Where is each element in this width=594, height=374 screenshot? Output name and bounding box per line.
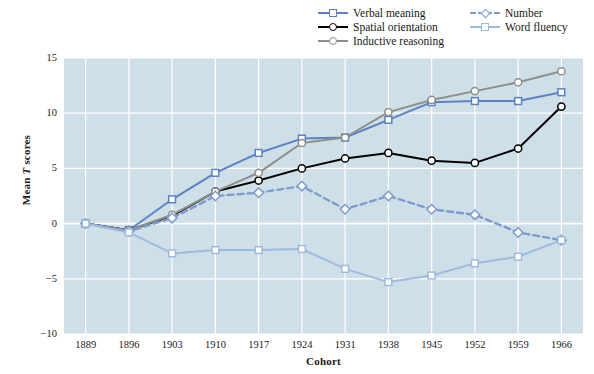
plot-area bbox=[64, 58, 583, 334]
x-axis-tick-label: 1924 bbox=[279, 339, 325, 350]
data-point-marker bbox=[342, 155, 349, 162]
data-point-marker bbox=[255, 169, 262, 176]
data-point-marker bbox=[254, 188, 264, 198]
x-axis-tick-label: 1903 bbox=[149, 339, 195, 350]
data-point-marker bbox=[212, 169, 219, 176]
data-point-marker bbox=[471, 260, 478, 267]
y-axis-tick-label: 0 bbox=[17, 219, 57, 229]
data-point-marker bbox=[125, 229, 132, 236]
series-inductive-reasoning bbox=[82, 68, 565, 234]
y-axis-tick-label: 10 bbox=[17, 108, 57, 118]
y-axis-tick-label: 15 bbox=[17, 53, 57, 63]
x-axis-tick-label: 1952 bbox=[452, 339, 498, 350]
data-point-marker bbox=[169, 196, 176, 203]
data-point-marker bbox=[298, 165, 305, 172]
chart-canvas: 151050−5−10 1889189619031910191719241931… bbox=[0, 0, 594, 374]
series-layer bbox=[81, 68, 566, 286]
y-axis-tick-label: −5 bbox=[17, 274, 57, 284]
data-point-marker bbox=[515, 79, 522, 86]
data-point-marker bbox=[470, 210, 480, 220]
series-line bbox=[86, 224, 562, 283]
x-axis-tick-label: 1966 bbox=[538, 339, 584, 350]
data-point-marker bbox=[297, 181, 307, 191]
x-axis-tick-label: 1945 bbox=[409, 339, 455, 350]
series-verbal-meaning bbox=[82, 89, 565, 234]
x-axis-tick-label: 1896 bbox=[106, 339, 152, 350]
data-point-marker bbox=[298, 246, 305, 253]
data-point-marker bbox=[255, 247, 262, 254]
series-line bbox=[86, 71, 562, 230]
data-point-marker bbox=[255, 150, 262, 157]
data-point-marker bbox=[82, 220, 89, 227]
plot-svg bbox=[64, 58, 583, 334]
data-point-marker bbox=[169, 250, 176, 257]
data-point-marker bbox=[428, 157, 435, 164]
data-point-marker bbox=[342, 265, 349, 272]
data-point-marker bbox=[384, 191, 394, 201]
data-point-marker bbox=[471, 88, 478, 95]
x-axis-tick-label: 1931 bbox=[322, 339, 368, 350]
data-point-marker bbox=[471, 159, 478, 166]
data-point-marker bbox=[298, 139, 305, 146]
data-point-marker bbox=[385, 108, 392, 115]
x-axis-tick-label: 1917 bbox=[236, 339, 282, 350]
data-point-marker bbox=[385, 116, 392, 123]
data-point-marker bbox=[385, 149, 392, 156]
data-point-marker bbox=[515, 253, 522, 260]
data-point-marker bbox=[255, 177, 262, 184]
x-axis-tick-label: 1910 bbox=[192, 339, 238, 350]
data-point-marker bbox=[515, 145, 522, 152]
x-axis-tick-label: 1959 bbox=[495, 339, 541, 350]
data-point-marker bbox=[471, 98, 478, 105]
data-point-marker bbox=[558, 237, 565, 244]
data-point-marker bbox=[427, 204, 437, 214]
x-axis-tick-label: 1889 bbox=[63, 339, 109, 350]
y-axis-tick-label: 5 bbox=[17, 163, 57, 173]
data-point-marker bbox=[428, 96, 435, 103]
data-point-marker bbox=[342, 134, 349, 141]
data-point-marker bbox=[340, 204, 350, 214]
data-point-marker bbox=[515, 98, 522, 105]
series-word-fluency bbox=[82, 220, 565, 285]
data-point-marker bbox=[385, 279, 392, 286]
data-point-marker bbox=[428, 272, 435, 279]
data-point-marker bbox=[212, 247, 219, 254]
series-line bbox=[86, 186, 562, 240]
data-point-marker bbox=[558, 89, 565, 96]
y-axis-tick-label: −10 bbox=[17, 329, 57, 339]
data-point-marker bbox=[558, 103, 565, 110]
x-axis-tick-label: 1938 bbox=[365, 339, 411, 350]
data-point-marker bbox=[558, 68, 565, 75]
gridlines bbox=[64, 58, 583, 334]
data-point-marker bbox=[513, 228, 523, 238]
